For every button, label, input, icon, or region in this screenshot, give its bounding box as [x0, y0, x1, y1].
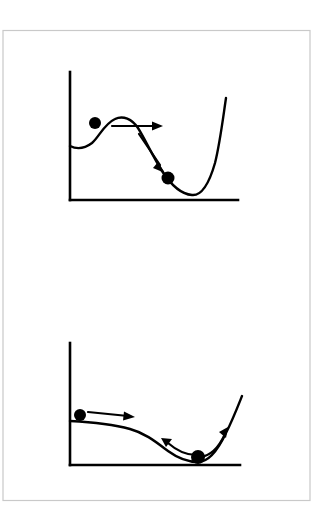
- page-border-frame: [3, 31, 310, 501]
- top-panel-ball-in-well: [162, 172, 175, 185]
- arrow-head-right: [152, 122, 163, 131]
- bottom-panel-rebound-left-arrow: [161, 438, 196, 455]
- top-panel-downhill-arrow: [139, 134, 165, 173]
- bottom-panel-approach-arrow: [88, 412, 135, 421]
- arrow-head-right: [123, 412, 135, 421]
- top-panel-group: [70, 72, 238, 200]
- energy-landscape-figure: [0, 0, 331, 525]
- bottom-panel-group: [70, 343, 242, 465]
- top-panel-ball-on-plateau: [89, 117, 101, 129]
- bottom-panel-energy-curve: [70, 396, 242, 462]
- bottom-panel-ball-incoming: [74, 409, 86, 421]
- figure-page: [0, 0, 331, 525]
- arrow-head-down-right: [153, 162, 165, 173]
- bottom-panel-ball-at-minimum: [191, 450, 205, 464]
